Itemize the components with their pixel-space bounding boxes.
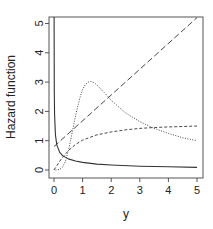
y-tick-label: 2 [33, 108, 45, 114]
x-tick-label: 4 [165, 184, 171, 196]
series-longdash-line [54, 18, 197, 147]
series-dashed-line [54, 126, 197, 170]
plot-area-frame [49, 17, 203, 178]
x-tick-label: 5 [194, 184, 200, 196]
hazard-chart: 012345 012345 y Hazard function [0, 0, 213, 229]
y-axis: 012345 [33, 20, 49, 173]
x-axis-label: y [123, 207, 129, 221]
x-axis: 012345 [51, 178, 200, 196]
x-tick-label: 3 [137, 184, 143, 196]
y-tick-label: 4 [33, 50, 45, 56]
y-tick-label: 0 [33, 167, 45, 173]
y-tick-label: 3 [33, 79, 45, 85]
y-tick-label: 1 [33, 138, 45, 144]
series-layer [54, 15, 197, 170]
x-tick-label: 1 [80, 184, 86, 196]
x-tick-label: 2 [108, 184, 114, 196]
y-tick-label: 5 [33, 20, 45, 26]
y-axis-label: Hazard function [4, 55, 18, 139]
series-solid-line [54, 15, 197, 168]
x-tick-label: 0 [51, 184, 57, 196]
